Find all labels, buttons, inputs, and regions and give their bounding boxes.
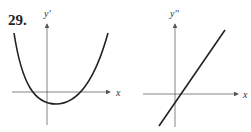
right-y-label: y'' (169, 8, 180, 19)
graphs-figure: y' x y'' x (0, 0, 251, 132)
left-x-label: x (115, 87, 121, 98)
parabola-curve (14, 33, 108, 104)
left-graph: y' x (12, 8, 121, 125)
right-graph: y'' x (143, 8, 248, 127)
left-y-label: y' (43, 8, 51, 19)
right-x-label: x (242, 89, 248, 100)
linear-curve (159, 30, 225, 126)
